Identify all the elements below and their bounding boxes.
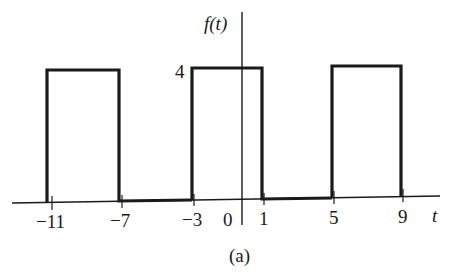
x-tick-label: 5 [329,208,339,227]
x-tick-label: 9 [398,207,408,226]
pulse-left [47,70,192,202]
square-wave-chart [0,0,453,272]
x-tick-label: −3 [182,210,202,229]
y-axis-label: f(t) [204,14,227,33]
x-tick-label: 1 [259,209,269,228]
x-tick-label: −7 [110,211,130,230]
figure-caption: (a) [229,246,250,265]
x-axis [12,196,440,203]
y-tick-label-4: 4 [175,62,185,81]
x-tick-label: 0 [223,210,233,229]
pulse-right [332,66,401,198]
x-axis-label: t [432,206,437,225]
x-tick-label: −11 [36,212,65,231]
pulse-train-series [47,66,401,202]
pulse-center [192,68,332,200]
